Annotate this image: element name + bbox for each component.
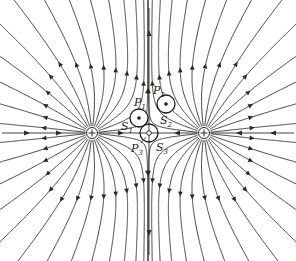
arrow-icon xyxy=(89,63,94,68)
arrow-icon xyxy=(101,65,106,70)
svg-text:S3: S3 xyxy=(156,141,169,156)
arrow-icon xyxy=(167,188,172,193)
arrow-icon xyxy=(113,191,118,196)
field-line xyxy=(0,139,88,242)
arrow-icon xyxy=(233,62,238,68)
field-line xyxy=(18,140,90,261)
charge-right xyxy=(199,128,210,139)
field-line xyxy=(44,0,91,126)
field-line xyxy=(97,0,128,128)
arrow-icon xyxy=(58,62,63,68)
field-line xyxy=(96,0,116,127)
arrow-icon xyxy=(41,136,46,141)
field-line xyxy=(0,135,85,162)
arrow-icon xyxy=(124,188,129,193)
field-line xyxy=(192,0,206,126)
arrow-icon xyxy=(248,116,253,121)
surface-s1: P1 S1 xyxy=(121,96,148,135)
field-line xyxy=(211,135,296,162)
svg-text:P1: P1 xyxy=(133,96,146,111)
arrow-icon xyxy=(202,195,207,200)
arrow-icon xyxy=(249,126,254,131)
arrow-icon xyxy=(43,146,48,151)
arrow-icon xyxy=(231,196,236,202)
svg-text:P2: P2 xyxy=(152,84,165,99)
arrow-icon xyxy=(248,146,253,151)
arrow-icon xyxy=(190,194,195,199)
field-line xyxy=(14,0,90,126)
field-line xyxy=(0,104,85,131)
field-line xyxy=(206,140,278,261)
arrow-icon xyxy=(158,183,163,188)
arrow-icon xyxy=(203,63,208,68)
surface-s2: P2 S2 xyxy=(152,84,175,129)
charge-left xyxy=(87,128,98,139)
field-line xyxy=(208,24,296,127)
field-line xyxy=(90,0,104,126)
arrow-icon xyxy=(141,81,146,86)
field-line xyxy=(180,0,200,127)
field-line xyxy=(47,140,91,261)
arrow-icon xyxy=(43,116,48,121)
svg-text:P3: P3 xyxy=(130,142,143,157)
arrow-icon xyxy=(89,195,94,200)
arrow-icon xyxy=(150,178,155,183)
arrow-icon xyxy=(113,67,118,72)
svg-text:S2: S2 xyxy=(160,114,173,129)
field-line xyxy=(96,139,116,261)
arrow-icon xyxy=(190,65,195,70)
arrow-icon xyxy=(141,178,146,183)
field-line xyxy=(208,139,296,242)
field-line xyxy=(205,140,249,261)
field-line xyxy=(206,0,282,126)
field-line xyxy=(0,24,88,127)
arrow-icon xyxy=(41,126,46,131)
arrow-icon xyxy=(60,196,65,202)
field-line xyxy=(148,0,197,132)
field-line xyxy=(180,139,200,261)
field-line xyxy=(92,140,104,261)
arrow-icon xyxy=(249,136,254,141)
field-line xyxy=(211,104,296,131)
field-line xyxy=(192,140,204,261)
field-line xyxy=(205,0,252,126)
arrow-icon xyxy=(102,194,107,199)
arrow-icon xyxy=(134,183,139,188)
arrow-icon xyxy=(178,191,183,196)
field-line-diagram: P1 S1 P2 S2 P3 S3 xyxy=(0,0,296,261)
arrow-icon xyxy=(178,67,183,72)
